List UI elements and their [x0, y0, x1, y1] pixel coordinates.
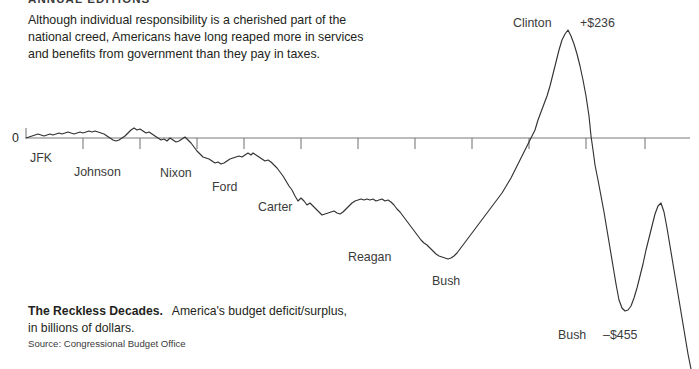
president-label-bush-43: Bush [558, 329, 586, 341]
value-label-clinton-surplus-peak: +$236 [580, 17, 615, 29]
president-label-ford: Ford [212, 181, 237, 193]
chart-source: Source: Congressional Budget Office [28, 338, 186, 349]
chart-caption: The Reckless Decades.America's budget de… [28, 303, 358, 336]
president-label-carter: Carter [258, 201, 292, 213]
caption-lead: The Reckless Decades. [28, 304, 163, 318]
president-label-johnson: Johnson [74, 166, 121, 178]
president-label-nixon: Nixon [160, 167, 192, 179]
president-label-jfk: JFK [30, 152, 52, 164]
value-label-bush-deficit-trough: –$455 [603, 329, 637, 341]
president-label-bush-41: Bush [432, 275, 460, 287]
president-label-clinton: Clinton [513, 17, 552, 29]
president-label-reagan: Reagan [348, 251, 391, 263]
